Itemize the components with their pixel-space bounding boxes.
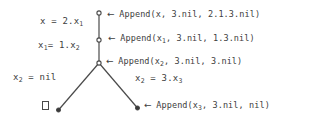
label-x2-equals-nil: x2 = nil xyxy=(13,72,56,84)
root-node xyxy=(97,11,101,15)
left-arrow-icon: ← xyxy=(107,9,114,19)
annotation-append-x1: ← Append(x1, 3.nil, 1.3.nil) xyxy=(108,33,255,44)
label-x2-equals-3x3: x2 = 3.x3 xyxy=(135,73,183,85)
subscript-2: 2 xyxy=(141,77,145,85)
subscript-1: 1 xyxy=(44,44,48,52)
annotation-append-x2: ← Append(x2, 3.nil, 3.nil) xyxy=(106,56,242,67)
left-leaf-node xyxy=(56,108,60,112)
edge-branch-to-right-leaf xyxy=(99,63,138,108)
label-x1-equals: x1= 1.x2 xyxy=(38,40,80,52)
annotation-text-pre: Append(x xyxy=(120,33,162,43)
subscript-2: 2 xyxy=(160,60,164,68)
subscript-1: 1 xyxy=(162,37,166,45)
branch-node xyxy=(97,61,101,65)
second-node xyxy=(97,38,101,42)
annotation-text-post: , 3.nil, 3.nil) xyxy=(164,56,242,66)
edge-branch-to-left-leaf xyxy=(59,63,100,110)
annotation-append-x3: ← Append(x3, 3.nil, nil) xyxy=(144,100,270,111)
annotation-text-pre: Append(x xyxy=(118,56,160,66)
right-leaf-node xyxy=(135,106,139,110)
subscript-2: 2 xyxy=(19,76,23,84)
empty-clause-box xyxy=(42,101,49,110)
subscript-1: 1 xyxy=(79,20,83,28)
subscript-3: 3 xyxy=(178,77,182,85)
left-arrow-icon: ← xyxy=(106,56,113,66)
annotation-text-post: , 3.nil, nil) xyxy=(202,100,270,110)
left-arrow-icon: ← xyxy=(144,100,151,110)
label-x-equals: x = 2.x1 xyxy=(40,16,83,28)
annotation-text-post: , 3.nil, 1.3.nil) xyxy=(166,33,255,43)
subscript-2: 2 xyxy=(76,44,80,52)
subscript-3: 3 xyxy=(198,104,202,112)
left-arrow-icon: ← xyxy=(108,33,115,43)
annotation-append-x: ← Append(x, 3.nil, 2.1.3.nil) xyxy=(107,9,260,19)
annotation-text: Append(x, 3.nil, 2.1.3.nil) xyxy=(119,9,260,19)
annotation-text-pre: Append(x xyxy=(156,100,198,110)
